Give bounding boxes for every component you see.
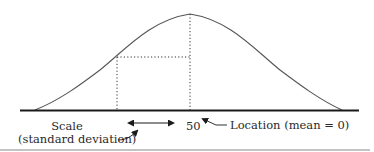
location-arrow-icon (203, 119, 227, 125)
scale-label: Scale (51, 119, 83, 133)
scale-sublabel: (standard deviation) (18, 132, 136, 146)
normal-distribution-diagram: 50 Location (mean = 0) Scale (standard d… (0, 0, 374, 152)
center-value-label: 50 (186, 119, 201, 133)
bell-curve (35, 14, 342, 110)
location-label: Location (mean = 0) (230, 118, 349, 132)
